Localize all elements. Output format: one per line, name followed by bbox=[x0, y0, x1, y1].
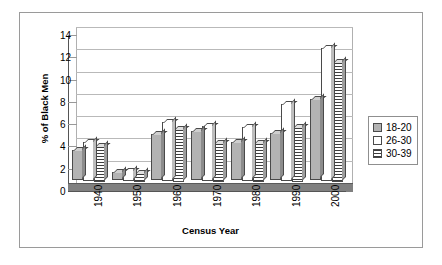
y-tick-label: 14 bbox=[60, 35, 62, 36]
x-tick-label: 2000 bbox=[330, 185, 341, 207]
bar bbox=[72, 150, 83, 180]
bar-side-face bbox=[201, 125, 205, 178]
bar-side-face bbox=[104, 141, 108, 181]
bar-side-face bbox=[263, 138, 267, 181]
bar-top-face bbox=[203, 123, 218, 127]
bar-side-face bbox=[172, 116, 176, 179]
legend-item: 30-39 bbox=[373, 147, 412, 160]
bar-side-face bbox=[212, 121, 216, 180]
legend: 18-2026-3030-39 bbox=[368, 116, 418, 165]
x-axis-title: Census Year bbox=[68, 225, 353, 236]
y-tick-label: 10 bbox=[60, 79, 62, 80]
legend-swatch-icon bbox=[373, 149, 382, 158]
bar-group bbox=[72, 26, 105, 182]
bar-top-face bbox=[84, 139, 99, 143]
bar-group bbox=[151, 26, 184, 182]
bar bbox=[270, 133, 281, 180]
bar-side-face bbox=[252, 122, 256, 180]
bar-group bbox=[112, 26, 145, 182]
legend-swatch-icon bbox=[373, 136, 382, 145]
legend-label: 18-20 bbox=[386, 122, 412, 133]
bar bbox=[231, 142, 242, 180]
plot-area: 02468101214 1940195019601970198019902000 bbox=[68, 27, 353, 191]
bar bbox=[151, 134, 162, 180]
x-tick-label: 1950 bbox=[132, 185, 143, 207]
y-tick-label: 2 bbox=[60, 168, 62, 169]
chart-frame: % of Black Men 02468101214 1940195019601… bbox=[19, 12, 423, 248]
bar-side-face bbox=[302, 122, 306, 181]
legend-label: 30-39 bbox=[386, 148, 412, 159]
x-tick-label: 1990 bbox=[291, 185, 302, 207]
bar-side-face bbox=[161, 128, 165, 178]
legend-item: 18-20 bbox=[373, 121, 412, 134]
x-tick-label: 1940 bbox=[93, 185, 104, 207]
bar-side-face bbox=[82, 144, 86, 179]
y-axis-title: % of Black Men bbox=[39, 54, 50, 164]
x-axis-line bbox=[68, 191, 346, 192]
bar-side-face bbox=[320, 94, 324, 179]
legend-swatch-icon bbox=[373, 123, 382, 132]
x-tick-label: 1980 bbox=[251, 185, 262, 207]
bar-top-face bbox=[282, 101, 297, 105]
bar-side-face bbox=[93, 136, 97, 179]
bar-side-face bbox=[223, 138, 227, 181]
bar bbox=[112, 172, 123, 180]
bar-side-face bbox=[291, 98, 295, 179]
bar-group bbox=[231, 26, 264, 182]
bar bbox=[310, 99, 321, 179]
bar bbox=[191, 131, 202, 180]
y-tick-label: 6 bbox=[60, 124, 62, 125]
bar-side-face bbox=[183, 123, 187, 181]
y-tick-label: 12 bbox=[60, 57, 62, 58]
x-tick-label: 1970 bbox=[212, 185, 223, 207]
y-tick-label: 8 bbox=[60, 101, 62, 102]
y-tick-label: 0 bbox=[60, 191, 62, 192]
bar-side-face bbox=[331, 43, 335, 180]
legend-item: 26-30 bbox=[373, 134, 412, 147]
bar-side-face bbox=[241, 136, 245, 178]
legend-label: 26-30 bbox=[386, 135, 412, 146]
bar-group bbox=[310, 26, 343, 182]
bar-side-face bbox=[342, 56, 346, 181]
x-tick-label: 1960 bbox=[172, 185, 183, 207]
bar-group bbox=[270, 26, 303, 182]
bar-group bbox=[191, 26, 224, 182]
y-tick-label: 4 bbox=[60, 146, 62, 147]
bar-side-face bbox=[280, 127, 284, 178]
